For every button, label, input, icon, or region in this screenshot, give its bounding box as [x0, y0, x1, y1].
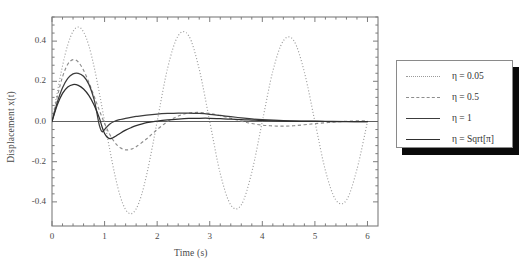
- legend-label: η = Sqrt[π]: [452, 134, 494, 144]
- legend-item: η = 0.5: [397, 86, 512, 107]
- legend-item: η = Sqrt[π]: [397, 128, 512, 149]
- y-tick-label: 0.4: [18, 35, 46, 45]
- x-tick-label: 3: [196, 231, 224, 241]
- legend-label: η = 0.5: [452, 92, 479, 102]
- x-tick-label: 2: [143, 231, 171, 241]
- legend-line-sample: [406, 134, 440, 144]
- y-tick-label: 0.0: [18, 116, 46, 126]
- x-tick-label: 6: [353, 231, 381, 241]
- legend-line-sample: [406, 71, 440, 81]
- y-axis-label-text: Displacement x(t): [6, 91, 16, 163]
- legend-line-sample: [406, 92, 440, 102]
- y-tick-label: -0.4: [18, 196, 46, 206]
- x-axis-label-text: Time (s): [174, 248, 208, 258]
- x-tick-label: 5: [301, 231, 329, 241]
- legend: η = 0.05η = 0.5η = 1η = Sqrt[π]: [396, 60, 513, 148]
- legend-item: η = 1: [397, 107, 512, 128]
- x-tick-label: 1: [91, 231, 119, 241]
- x-tick-label: 0: [38, 231, 66, 241]
- y-tick-label: -0.2: [18, 156, 46, 166]
- x-tick-label: 4: [248, 231, 276, 241]
- legend-line-sample: [406, 113, 440, 123]
- y-tick-label: 0.2: [18, 75, 46, 85]
- legend-item: η = 0.05: [397, 65, 512, 86]
- legend-label: η = 1: [452, 113, 472, 123]
- legend-label: η = 0.05: [452, 71, 484, 81]
